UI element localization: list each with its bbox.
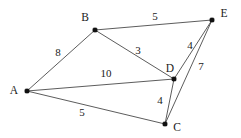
graph-edge-d-c <box>165 79 174 124</box>
graph-edge-b-e <box>95 20 212 30</box>
nodes-group <box>25 18 214 126</box>
node-label-d: D <box>166 63 174 74</box>
graph-canvas <box>0 0 241 138</box>
edge-weight-a-d: 10 <box>101 68 112 79</box>
graph-node-c <box>163 122 167 126</box>
edge-weight-a-c: 5 <box>79 107 85 118</box>
graph-edge-a-c <box>27 91 165 124</box>
graph-node-b <box>93 28 97 32</box>
edge-weight-d-e: 4 <box>187 40 193 51</box>
node-label-a: A <box>10 85 18 96</box>
edge-weight-a-b: 8 <box>55 47 61 58</box>
edge-weight-b-d: 3 <box>135 45 141 56</box>
edge-weight-b-e: 5 <box>152 11 158 22</box>
graph-node-a <box>25 89 29 93</box>
edge-weight-c-e: 7 <box>198 61 204 72</box>
graph-edge-a-d <box>27 79 174 91</box>
graph-edge-a-b <box>27 30 95 91</box>
graph-node-e <box>210 18 214 22</box>
edges-group <box>27 20 212 124</box>
node-label-e: E <box>220 8 227 19</box>
node-label-c: C <box>173 122 181 133</box>
graph-node-d <box>172 77 176 81</box>
weighted-graph-diagram: ABCDE 810553447 <box>0 0 241 138</box>
node-label-b: B <box>81 12 89 23</box>
edge-weight-d-c: 4 <box>157 95 163 106</box>
